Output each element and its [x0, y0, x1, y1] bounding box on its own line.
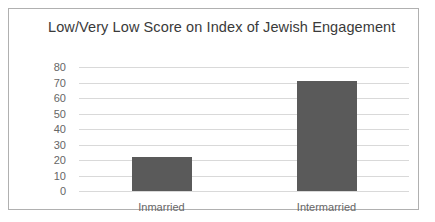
- chart-frame: Low/Very Low Score on Index of Jewish En…: [8, 8, 419, 210]
- x-axis-tick-label: Inmarried: [138, 201, 184, 213]
- y-axis-tick-label: 80: [26, 62, 66, 73]
- gridline: [79, 176, 409, 177]
- gridline: [79, 129, 409, 130]
- gridline: [79, 145, 409, 146]
- y-axis-tick-label: 50: [26, 108, 66, 119]
- y-axis-tick-label: 0: [26, 186, 66, 197]
- y-axis-tick-label: 70: [26, 77, 66, 88]
- gridline: [79, 191, 409, 192]
- gridline: [79, 98, 409, 99]
- y-axis-tick-label: 30: [26, 139, 66, 150]
- y-axis-tick-label: 20: [26, 155, 66, 166]
- y-axis-tick-label: 40: [26, 124, 66, 135]
- gridline: [79, 160, 409, 161]
- gridline: [79, 67, 409, 68]
- gridline: [79, 83, 409, 84]
- x-axis-tick-label: Intermarried: [297, 201, 356, 213]
- gridline: [79, 114, 409, 115]
- y-axis-tick-label: 60: [26, 93, 66, 104]
- bar[interactable]: [132, 157, 192, 191]
- chart-title: Low/Very Low Score on Index of Jewish En…: [48, 19, 395, 35]
- plot-area: 80706050403020100InmarriedIntermarried: [71, 59, 409, 199]
- y-axis-tick-label: 10: [26, 170, 66, 181]
- bar[interactable]: [297, 81, 357, 191]
